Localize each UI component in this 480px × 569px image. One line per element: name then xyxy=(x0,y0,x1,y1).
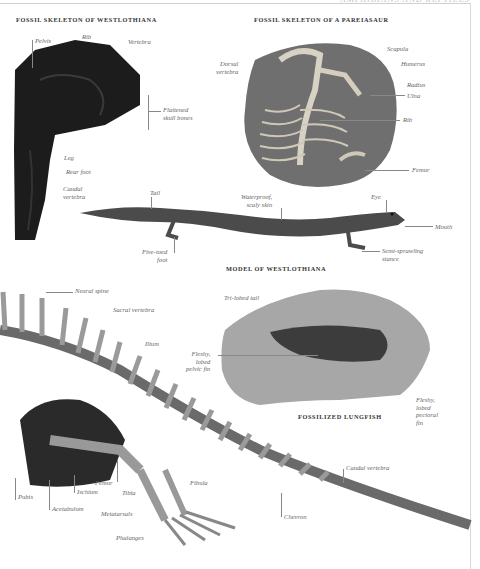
label-ulna: Ulna xyxy=(407,92,420,100)
leader-line xyxy=(174,237,175,253)
label-mouth: Mouth xyxy=(435,223,452,231)
label-tri-lobed-tail: Tri-lobed tail xyxy=(224,294,259,302)
leader-line xyxy=(362,251,380,252)
lungfish-fossil-image xyxy=(221,289,430,405)
label-scapula: Scapula xyxy=(387,45,408,53)
leader-line xyxy=(386,200,387,212)
label-caudal-vertebra: Caudalvertebra xyxy=(63,185,85,200)
label-sacral-vertebra: Sacral vertebra xyxy=(113,306,154,314)
label-tibia: Tibia xyxy=(122,489,136,497)
label-acetabulum: Acetabulum xyxy=(52,505,84,513)
leader-line xyxy=(74,475,75,493)
leader-line xyxy=(405,226,433,227)
label-tail: Tail xyxy=(150,189,160,197)
label-eye: Eye xyxy=(371,193,381,201)
leader-line xyxy=(281,493,282,517)
label-pubis: Pubis xyxy=(18,493,33,501)
leader-line xyxy=(281,208,282,220)
label-dorsal-vertebra: Dorsalvertebra xyxy=(216,60,238,75)
label-waterproof-skin: Waterproof,scaly skin xyxy=(241,193,272,208)
label-flattened-skull: Flattenedskull bones xyxy=(163,106,193,121)
label-caudal-vertebra: Caudal vertebra xyxy=(346,464,389,472)
label-neural-spine: Neural spine xyxy=(75,287,109,295)
lungfish-title: FOSSILIZED LUNGFISH xyxy=(298,413,382,420)
label-radius: Radius xyxy=(407,81,425,89)
leader-line xyxy=(49,480,50,510)
leader-line xyxy=(149,111,161,112)
label-rib: Rib xyxy=(82,33,91,41)
label-femur: Femur xyxy=(95,479,113,487)
leader-line xyxy=(15,478,16,500)
westlothiana-model-image xyxy=(80,207,405,248)
leader-line xyxy=(365,170,409,171)
label-metatarsals: Metatarsals xyxy=(101,510,133,518)
leader-line xyxy=(343,469,344,483)
label-femur: Femur xyxy=(412,166,430,174)
label-leg: Leg xyxy=(64,154,74,162)
pareiasaur-fossil-title: FOSSIL SKELETON OF A PAREIASAUR xyxy=(254,16,389,23)
bracket-line xyxy=(148,95,149,130)
leader-line xyxy=(151,197,152,209)
leader-line xyxy=(32,40,33,68)
label-ischium: Ischium xyxy=(77,488,98,496)
label-pelvis: Pelvis xyxy=(35,37,51,45)
label-phalanges: Phalanges xyxy=(116,534,144,542)
pareiasaur-fossil-image xyxy=(244,43,396,187)
label-humerus: Humerus xyxy=(401,60,425,68)
leader-line xyxy=(46,292,73,293)
westlothiana-fossil-title: FOSSIL SKELETON OF WESTLOTHIANA xyxy=(16,16,157,23)
label-rear-foot: Rear foot xyxy=(66,168,91,176)
label-rib: Rib xyxy=(403,116,412,124)
label-vertebra: Vertebra xyxy=(128,38,151,46)
westlothiana-model-title: MODEL OF WESTLOTHIANA xyxy=(226,265,326,272)
label-semi-sprawling-stance: Semi-sprawlingstance xyxy=(382,247,423,262)
label-pelvic-fin: Fleshy,lobedpelvic fin xyxy=(186,350,210,373)
label-chevron: Chevron xyxy=(284,513,306,521)
leader-line xyxy=(370,95,405,96)
label-pectoral-fin: Fleshy,lobedpectoralfin xyxy=(416,396,438,426)
label-ilium: Ilium xyxy=(145,340,159,348)
leader-line xyxy=(218,355,318,356)
label-five-toed-foot: Five-toedfoot xyxy=(142,248,167,263)
leader-line xyxy=(117,460,118,482)
label-fibula: Fibula xyxy=(190,479,208,487)
leader-line xyxy=(320,120,400,121)
